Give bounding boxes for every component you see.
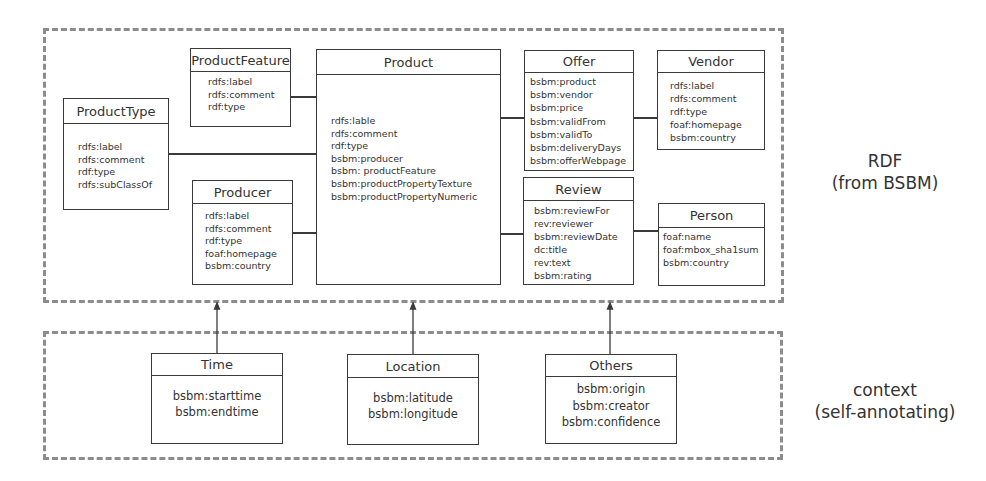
attribute: rdf:type	[208, 101, 290, 114]
attribute: bsbm:price	[530, 101, 633, 114]
class-attributes: rdfs:label rdfs:comment rdf:type rdfs:su…	[64, 124, 168, 191]
attribute: rdfs:comment	[670, 92, 764, 105]
attribute: bsbm:deliveryDays	[530, 141, 633, 154]
attribute: rdfs:comment	[205, 223, 292, 236]
attribute: bsbm:offerWebpage	[530, 154, 633, 167]
class-productfeature: ProductFeature rdfs:label rdfs:comment r…	[190, 48, 291, 127]
class-location: Location bsbm:latitude bsbm:longitude	[347, 354, 479, 445]
class-attributes: rdfs:lable rdfs:comment rdf:type bsbm:pr…	[317, 75, 500, 203]
class-attributes: rdfs:label rdfs:comment rdf:type foaf:ho…	[658, 73, 764, 144]
attribute: rdf:type	[670, 105, 764, 118]
class-offer: Offer bsbm:product bsbm:vendor bsbm:pric…	[524, 50, 634, 171]
class-attributes: bsbm:reviewFor rev:reviewer bsbm:reviewD…	[524, 201, 633, 282]
attribute: bsbm:country	[670, 131, 764, 144]
attribute: rdfs:label	[205, 210, 292, 223]
class-product: Product rdfs:lable rdfs:comment rdf:type…	[316, 49, 501, 285]
attribute: rdf:type	[205, 235, 292, 248]
attribute: bsbm:starttime	[152, 389, 282, 405]
attribute: bsbm:reviewDate	[534, 230, 633, 243]
attribute: rev:reviewer	[534, 217, 633, 230]
arrowhead-icon	[215, 303, 220, 309]
attribute: bsbm:creator	[546, 398, 676, 415]
attribute: bsbm:productPropertyTexture	[331, 178, 500, 191]
attribute: rdfs:subClassOf	[78, 179, 168, 192]
class-title: Location	[348, 355, 478, 378]
attribute: bsbm:validFrom	[530, 115, 633, 128]
attribute: foaf:mbox_sha1sum	[663, 243, 764, 256]
class-title: Product	[317, 50, 500, 75]
attribute: rdf:type	[78, 166, 168, 179]
class-review: Review bsbm:reviewFor rev:reviewer bsbm:…	[523, 177, 634, 285]
class-time: Time bsbm:starttime bsbm:endtime	[151, 353, 283, 444]
class-attributes: bsbm:product bsbm:vendor bsbm:price bsbm…	[525, 73, 633, 167]
class-title: ProductType	[64, 99, 168, 124]
class-attributes: foaf:name foaf:mbox_sha1sum bsbm:country	[659, 228, 764, 269]
class-attributes: bsbm:starttime bsbm:endtime	[152, 376, 282, 420]
attribute: bsbm:confidence	[546, 414, 676, 431]
attribute: bsbm:country	[205, 260, 292, 273]
class-person: Person foaf:name foaf:mbox_sha1sum bsbm:…	[658, 203, 765, 286]
attribute: foaf:name	[663, 230, 764, 243]
class-vendor: Vendor rdfs:label rdfs:comment rdf:type …	[657, 50, 765, 150]
class-producttype: ProductType rdfs:label rdfs:comment rdf:…	[63, 98, 169, 210]
attribute: bsbm:origin	[546, 381, 676, 398]
class-attributes: rdfs:label rdfs:comment rdf:type foaf:ho…	[193, 204, 292, 273]
class-title: Person	[659, 204, 764, 228]
class-title: Vendor	[658, 51, 764, 73]
attribute: rdfs:lable	[331, 115, 500, 128]
attribute: bsbm:reviewFor	[534, 204, 633, 217]
attribute: foaf:homepage	[670, 118, 764, 131]
attribute: rdfs:label	[208, 76, 290, 89]
attribute: bsbm:vendor	[530, 88, 633, 101]
attribute: bsbm:country	[663, 256, 764, 269]
attribute: rev:text	[534, 256, 633, 269]
attribute: bsbm:productPropertyNumeric	[331, 191, 500, 204]
class-attributes: rdfs:label rdfs:comment rdf:type	[191, 72, 290, 114]
class-title: ProductFeature	[191, 49, 290, 72]
class-title: Review	[524, 178, 633, 201]
class-attributes: bsbm:latitude bsbm:longitude	[348, 378, 478, 422]
attribute: rdfs:comment	[78, 154, 168, 167]
attribute: foaf:homepage	[205, 248, 292, 261]
attribute: bsbm:product	[530, 75, 633, 88]
attribute: bsbm:validTo	[530, 128, 633, 141]
class-title: Others	[546, 355, 676, 377]
attribute: bsbm:endtime	[152, 405, 282, 421]
attribute: bsbm:rating	[534, 269, 633, 282]
attribute: rdf:type	[331, 140, 500, 153]
attribute: rdfs:comment	[208, 89, 290, 102]
class-attributes: bsbm:origin bsbm:creator bsbm:confidence	[546, 377, 676, 431]
attribute: rdfs:comment	[331, 128, 500, 141]
arrowhead-icon	[411, 303, 416, 309]
attribute: rdfs:label	[78, 141, 168, 154]
attribute: bsbm:longitude	[348, 407, 478, 423]
class-title: Producer	[193, 181, 292, 204]
class-title: Time	[152, 354, 282, 376]
class-others: Others bsbm:origin bsbm:creator bsbm:con…	[545, 354, 677, 444]
attribute: bsbm:latitude	[348, 391, 478, 407]
arrowhead-icon	[608, 303, 613, 309]
class-producer: Producer rdfs:label rdfs:comment rdf:typ…	[192, 180, 293, 285]
attribute: dc:title	[534, 243, 633, 256]
class-title: Offer	[525, 51, 633, 73]
attribute: rdfs:label	[670, 79, 764, 92]
attribute: bsbm:producer	[331, 153, 500, 166]
attribute: bsbm: productFeature	[331, 165, 500, 178]
